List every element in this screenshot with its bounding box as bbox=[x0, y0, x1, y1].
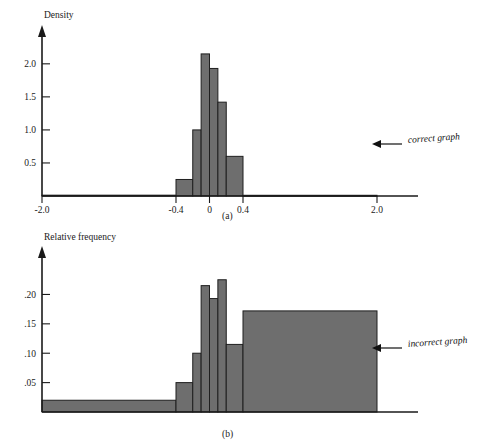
panel-a-x-tick-label: -2.0 bbox=[34, 205, 49, 215]
panel-b-bar bbox=[176, 383, 193, 412]
panel-b-annotation: incorrect graph bbox=[372, 335, 468, 352]
panel-a-y-axis-arrow-icon bbox=[38, 25, 46, 37]
panel-a-annotation-text: correct graph bbox=[407, 131, 460, 145]
panel-a-y-tick-label: 0.5 bbox=[24, 158, 36, 168]
panel-b-y-tick-label: .20 bbox=[24, 290, 36, 300]
statistics-figure: Density 0.51.01.52.0 -2.0-0.400.42.0 cor… bbox=[0, 0, 500, 444]
left-arrow-head-icon bbox=[372, 140, 381, 148]
panel-a-y-axis-label: Density bbox=[44, 10, 74, 20]
panel-b-bar bbox=[226, 344, 243, 412]
panel-a-x-tick-label: 0.4 bbox=[237, 205, 249, 215]
panel-a-bar bbox=[193, 130, 201, 196]
panel-a-density-histogram: Density 0.51.01.52.0 -2.0-0.400.42.0 cor… bbox=[0, 0, 500, 222]
panel-a-bar bbox=[218, 102, 226, 196]
panel-b-bar bbox=[193, 353, 201, 412]
panel-b-bar bbox=[210, 299, 218, 412]
panel-b-y-axis-label: Relative frequency bbox=[44, 232, 116, 242]
panel-a-y-tick-label: 2.0 bbox=[24, 59, 36, 69]
panel-b-caption: (b) bbox=[222, 429, 233, 440]
panel-b-y-tick-label: .15 bbox=[24, 319, 36, 329]
panel-b-y-tick-label: .10 bbox=[24, 349, 36, 359]
panel-a-bar bbox=[226, 156, 243, 196]
panel-a-x-tick-label: 0 bbox=[207, 205, 212, 215]
panel-b-bar bbox=[243, 311, 377, 412]
panel-b-y-tick-label: .05 bbox=[24, 378, 36, 388]
panel-b-relative-frequency-histogram: Relative frequency .05.10.15.20 incorrec… bbox=[0, 222, 500, 444]
panel-a-annotation: correct graph bbox=[372, 131, 460, 148]
panel-a-y-tick-label: 1.0 bbox=[24, 125, 36, 135]
panel-b-bar bbox=[42, 400, 176, 412]
panel-a-caption: (a) bbox=[222, 211, 233, 222]
panel-b-annotation-text: incorrect graph bbox=[407, 335, 467, 349]
panel-b-bar bbox=[218, 280, 226, 412]
panel-a-y-tick-label: 1.5 bbox=[24, 92, 36, 102]
panel-a-svg: Density 0.51.01.52.0 -2.0-0.400.42.0 cor… bbox=[0, 0, 500, 222]
panel-a-bar bbox=[201, 54, 209, 196]
panel-a-x-tick-label: 2.0 bbox=[371, 205, 383, 215]
panel-b-y-axis-arrow-icon bbox=[38, 246, 46, 258]
panel-b-svg: Relative frequency .05.10.15.20 incorrec… bbox=[0, 222, 500, 444]
panel-a-bar bbox=[210, 68, 218, 196]
panel-a-bar bbox=[176, 179, 193, 196]
panel-a-x-tick-label: -0.4 bbox=[168, 205, 183, 215]
panel-b-bar bbox=[201, 286, 209, 412]
